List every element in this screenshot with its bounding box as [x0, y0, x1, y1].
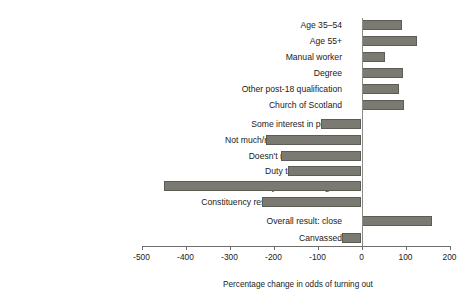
category-label: Canvassed — [0, 231, 352, 245]
x-axis-tick-label: 100 — [386, 252, 426, 262]
bar — [362, 36, 418, 46]
x-axis-tick-label: -300 — [210, 252, 250, 262]
x-axis-tick-label: 0 — [342, 252, 382, 262]
bar — [164, 181, 361, 191]
plot-area: Age 35–54 Age 55+ Manual worker Degree O… — [0, 0, 476, 302]
category-label: Overall result: close — [0, 214, 352, 228]
x-axis-title-text: Percentage change in odds of turning out — [103, 280, 373, 289]
x-axis-tick — [186, 246, 187, 250]
bar — [362, 20, 403, 30]
bar — [362, 216, 433, 226]
x-axis-tick-label: 200 — [430, 252, 470, 262]
bar — [362, 84, 400, 94]
category-label: Degree — [0, 66, 352, 80]
category-label: Age 55+ — [0, 34, 352, 48]
bar — [362, 100, 404, 110]
bar — [362, 68, 404, 78]
x-axis-tick — [406, 246, 407, 250]
x-axis-tick-label: -500 — [122, 252, 162, 262]
x-axis-tick — [274, 246, 275, 250]
category-label: Some interest in politics — [0, 117, 352, 131]
bar — [321, 119, 362, 129]
x-axis-tick — [142, 246, 143, 250]
x-axis-tick-label: -400 — [166, 252, 206, 262]
bar — [288, 166, 362, 176]
bar — [262, 197, 362, 207]
bar — [342, 233, 362, 243]
x-axis-title: Percentage change in odds of turning out — [0, 280, 476, 289]
category-label: Other post-18 qualification — [0, 82, 352, 96]
x-axis-tick — [450, 246, 451, 250]
category-label: Manual worker — [0, 50, 352, 64]
x-axis-tick — [230, 246, 231, 250]
x-axis-tick-label: -100 — [298, 252, 338, 262]
x-axis-tick-label: -200 — [254, 252, 294, 262]
bar-chart: Age 35–54 Age 55+ Manual worker Degree O… — [0, 0, 476, 302]
x-axis-line — [142, 246, 450, 247]
x-axis-tick — [362, 246, 363, 250]
bar — [281, 151, 361, 161]
category-label: Age 35–54 — [0, 18, 352, 32]
bar — [266, 135, 362, 145]
zero-reference-line — [362, 18, 363, 246]
bar — [362, 52, 385, 62]
x-axis-tick — [318, 246, 319, 250]
category-label: Church of Scotland — [0, 98, 352, 112]
